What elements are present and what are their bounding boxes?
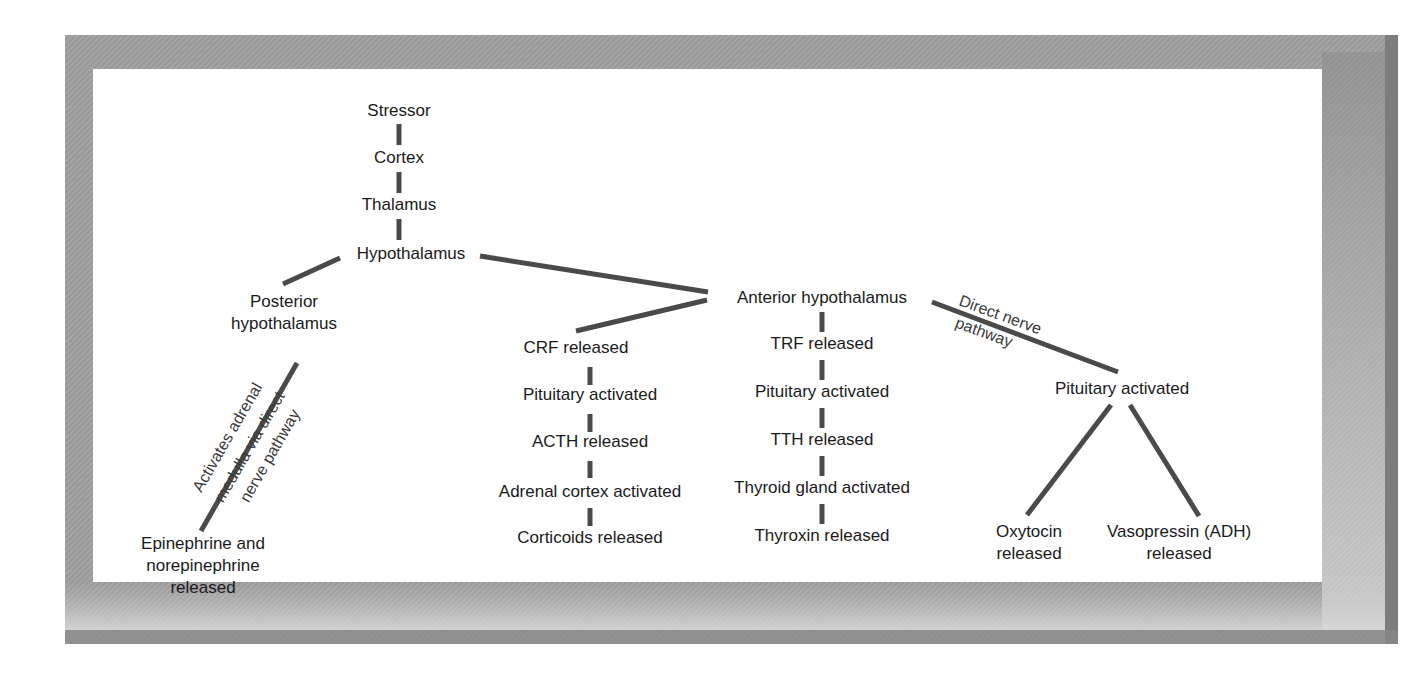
node-corticoids: Corticoids released (517, 528, 663, 547)
node-tth: TTH released (771, 430, 874, 449)
node-pit3: Pituitary activated (1055, 379, 1189, 398)
node-crf: CRF released (524, 338, 629, 357)
node-stressor: Stressor (367, 101, 431, 120)
stress-response-diagram: Activates adrenalmedulla via directnerve… (0, 0, 1424, 686)
node-pit2: Pituitary activated (755, 382, 889, 401)
node-cortex: Cortex (374, 148, 425, 167)
node-thyroid: Thyroid gland activated (734, 478, 910, 497)
node-acth: ACTH released (532, 432, 648, 451)
node-anterior: Anterior hypothalamus (737, 288, 907, 307)
node-adrenal: Adrenal cortex activated (499, 482, 681, 501)
node-hypothalamus: Hypothalamus (357, 244, 466, 263)
node-pit1: Pituitary activated (523, 385, 657, 404)
node-thalamus: Thalamus (362, 195, 437, 214)
node-thyroxin: Thyroxin released (754, 526, 889, 545)
node-trf: TRF released (771, 334, 874, 353)
